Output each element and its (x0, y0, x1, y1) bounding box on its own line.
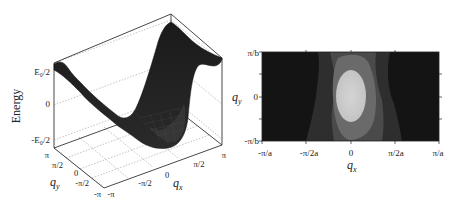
figure: Energy E₀/2 0 -E₀/2 π π/2 0 -π/2 -π qy -… (0, 0, 462, 203)
y-tick-neghalfpi: -π/2 (75, 178, 89, 188)
y-tick-halfpi: π/2 (52, 160, 63, 170)
x-tick-neghalfpi: -π/2 (138, 178, 152, 188)
x-axis-label: qx (173, 176, 183, 192)
x-tick-zero: 0 (165, 170, 169, 180)
hm-y-axis-label: qy (232, 90, 242, 106)
hm-x-tick-1: -π/2a (300, 148, 319, 158)
z-axis-label: Energy (9, 89, 23, 123)
hm-y-tick-mid: 0 (254, 92, 259, 102)
hm-x-tick-2: 0 (349, 148, 354, 158)
hm-y-tick-bot: -π/b (244, 136, 259, 146)
surface-plot: Energy E₀/2 0 -E₀/2 π π/2 0 -π/2 -π qy -… (9, 14, 227, 199)
x-tick-pi: π (222, 150, 227, 160)
contour-core (336, 70, 366, 122)
hm-x-axis-label: qx (347, 158, 357, 174)
y-tick-negpi: -π (94, 189, 102, 199)
x-tick-halfpi: π/2 (194, 159, 205, 169)
z-tick-bot: -E₀/2 (31, 135, 50, 145)
y-axis-label: qy (50, 175, 60, 191)
z-tick-mid: 0 (46, 99, 51, 109)
y-tick-pi: π (45, 150, 50, 160)
z-tick-top: E₀/2 (34, 67, 50, 77)
hm-x-tick-3: π/2a (388, 148, 404, 158)
x-tick-negpi: -π (107, 189, 115, 199)
y-tick-zero: 0 (74, 168, 78, 178)
hm-y-tick-top: π/b (247, 48, 259, 58)
hm-x-tick-0: -π/a (258, 148, 272, 158)
hm-x-tick-4: π/a (432, 148, 443, 158)
contour-map: π/b 0 -π/b qy -π/a -π/2a 0 π/2a π/a qx (232, 48, 444, 174)
